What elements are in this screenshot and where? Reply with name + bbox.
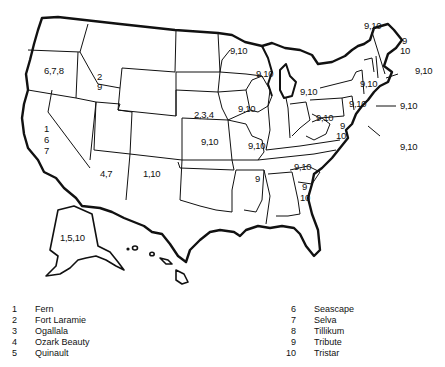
- label-alaska: 1,5,10: [60, 233, 85, 243]
- legend-cultivar: Fern: [17, 304, 54, 315]
- label-maine-2: 10: [400, 46, 410, 56]
- legend-cultivar: Tristar: [296, 348, 339, 359]
- label-oregon: 6,7,8: [44, 66, 64, 76]
- legend-left: 1Fern 2Fort Laramie 3Ogallala 4Ozark Bea…: [0, 304, 90, 359]
- legend-cultivar: Tillikum: [296, 326, 344, 337]
- legend-number: 2: [0, 315, 17, 326]
- legend-cultivar: Tribute: [296, 337, 342, 348]
- legend-cultivar: Selva: [296, 315, 337, 326]
- legend-item: 2Fort Laramie: [0, 315, 90, 326]
- legend-cultivar: Seascape: [296, 304, 354, 315]
- label-nebraska: 2,3,4: [194, 110, 214, 120]
- label-missouri: 9,10: [248, 141, 265, 151]
- legend-number: 9: [279, 337, 296, 348]
- label-california-3: 7: [44, 146, 49, 156]
- legend-item: 7Selva: [279, 315, 354, 326]
- legend-cultivar: Fort Laramie: [17, 315, 86, 326]
- label-kansas: 9,10: [201, 137, 218, 147]
- label-ohio: 9,10: [316, 113, 333, 123]
- legend-number: 4: [0, 337, 17, 348]
- label-arkansas: 9: [255, 174, 260, 184]
- legend-right: 6Seascape 7Selva 8Tillikum 9Tribute 10Tr…: [279, 304, 354, 359]
- label-new-mexico: 1,10: [143, 169, 160, 179]
- legend-number: 5: [0, 348, 17, 359]
- legend-number: 1: [0, 304, 17, 315]
- label-iowa: 9,10: [238, 104, 255, 114]
- label-idaho-2: 9: [97, 82, 102, 92]
- legend-cultivar: Quinault: [17, 348, 69, 359]
- label-massachusetts-callout: 9,10: [415, 66, 432, 76]
- label-alabama-1: 9: [302, 182, 307, 192]
- alaska-outline: [46, 206, 124, 276]
- label-california-1: 1: [44, 124, 49, 134]
- label-west-virginia-2: 10: [336, 131, 346, 141]
- label-michigan: 9,10: [300, 87, 317, 97]
- legend-item: 9Tribute: [279, 337, 354, 348]
- label-delaware-callout: 9,10: [400, 142, 417, 152]
- us-map: [0, 0, 445, 300]
- label-california-2: 6: [44, 135, 49, 145]
- legend-item: 10Tristar: [279, 348, 354, 359]
- legend-number: 10: [279, 348, 296, 359]
- legend-item: 1Fern: [0, 304, 90, 315]
- legend-item: 3Ogallala: [0, 326, 90, 337]
- legend-item: 8Tillikum: [279, 326, 354, 337]
- label-arizona: 4,7: [100, 169, 112, 179]
- legend-item: 4Ozark Beauty: [0, 337, 90, 348]
- legend-number: 7: [279, 315, 296, 326]
- label-minnesota: 9,10: [230, 46, 247, 56]
- legend-number: 8: [279, 326, 296, 337]
- legend-cultivar: Ogallala: [17, 326, 68, 337]
- label-new-york: 9,10: [360, 79, 377, 89]
- legend-cultivar: Ozark Beauty: [17, 337, 90, 348]
- label-wisconsin: 9,10: [256, 69, 273, 79]
- label-vermont-callout: 9,10: [364, 21, 381, 31]
- legend-item: 5Quinault: [0, 348, 90, 359]
- label-pennsylvania: 9,10: [349, 99, 366, 109]
- label-alabama-2: 10: [300, 193, 310, 203]
- label-kentucky: 9,10: [294, 162, 311, 172]
- legend-number: 6: [279, 304, 296, 315]
- label-new-jersey-callout: 9,10: [400, 101, 417, 111]
- legend-number: 3: [0, 326, 17, 337]
- legend-item: 6Seascape: [279, 304, 354, 315]
